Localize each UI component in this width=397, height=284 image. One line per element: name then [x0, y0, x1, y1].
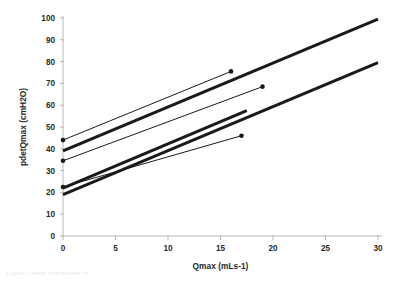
y-tick-label: 30	[46, 167, 56, 176]
y-tick-label: 70	[46, 79, 56, 88]
data-point-marker	[61, 158, 66, 163]
x-tick-label: 25	[321, 244, 331, 253]
x-axis-title: Qmax (mLs-1)	[193, 261, 249, 271]
y-tick-label: 90	[46, 36, 56, 45]
x-tick-label: 0	[61, 244, 66, 253]
data-point-marker	[239, 133, 244, 138]
x-tick-label: 30	[373, 244, 383, 253]
figure-caption-fragment: Figure Linear regression of ...	[6, 270, 196, 281]
data-point-marker	[61, 138, 66, 143]
y-axis-title: pdetQmax (cmH2O)	[18, 88, 28, 166]
x-tick-label: 10	[163, 244, 173, 253]
y-tick-label: 60	[46, 101, 56, 110]
y-tick-label: 50	[46, 123, 56, 132]
y-tick-label: 10	[46, 210, 56, 219]
figure-container: 0102030405060708090100 051015202530 pdet…	[0, 0, 397, 284]
y-tick-label: 0	[50, 232, 55, 241]
y-tick-label: 40	[46, 145, 56, 154]
x-tick-label: 15	[216, 244, 226, 253]
y-tick-label: 80	[46, 58, 56, 67]
y-tick-label: 20	[46, 188, 56, 197]
chart-canvas: 0102030405060708090100 051015202530 pdet…	[0, 0, 397, 284]
x-tick-label: 20	[268, 244, 278, 253]
data-point-marker	[229, 69, 234, 74]
data-point-marker	[260, 84, 265, 89]
x-tick-label: 5	[113, 244, 118, 253]
chart-background	[0, 0, 397, 284]
y-tick-label: 100	[41, 14, 55, 23]
